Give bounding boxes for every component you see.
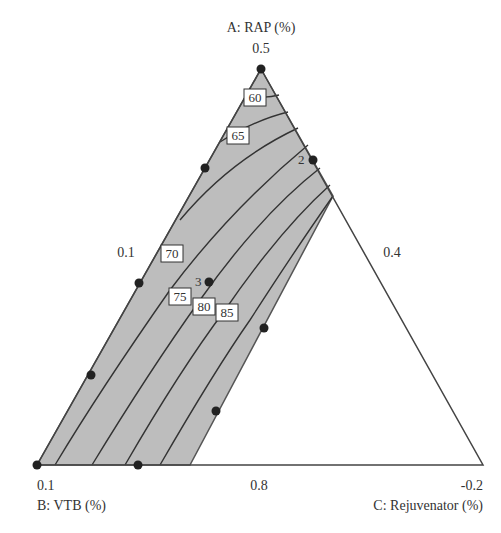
svg-text:85: 85 [221,305,234,320]
svg-text:65: 65 [232,128,245,143]
point-label-3: 3 [195,274,202,289]
axis-c-side-value: 0.4 [383,245,401,260]
feasible-region [37,69,333,465]
axis-a-side-value: 0.1 [117,245,135,260]
svg-text:70: 70 [166,246,179,261]
axis-b-apex-value: 0.1 [37,478,55,493]
axis-a-apex-value: 0.5 [252,41,270,56]
axis-c-title: C: Rejuvenator (%) [373,498,483,514]
svg-text:80: 80 [198,299,211,314]
axis-b-title: B: VTB (%) [37,498,106,514]
ternary-plot: 60 65 70 75 80 85 2 3 A: RAP (%) 0.5 0.1… [0,0,501,533]
svg-text:75: 75 [174,289,187,304]
axis-a-title: A: RAP (%) [227,20,296,36]
axis-b-side-value: 0.8 [250,478,268,493]
svg-text:60: 60 [249,90,262,105]
point-label-2: 2 [298,152,305,167]
axis-c-apex-value: -0.2 [461,478,483,493]
